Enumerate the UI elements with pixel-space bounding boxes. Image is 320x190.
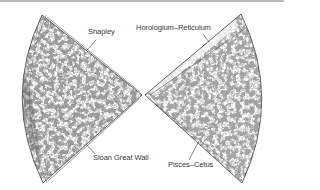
label-horologium-reticulum: Horologium–Reticulum bbox=[136, 23, 211, 32]
leader-pisces bbox=[189, 141, 199, 160]
label-sloan-great-wall: Sloan Great Wall bbox=[93, 153, 149, 162]
leader-shapley bbox=[87, 40, 96, 50]
label-shapley: Shapley bbox=[88, 27, 115, 36]
label-pisces-cetus: Pisces–Cetus bbox=[168, 160, 213, 169]
leader-horologium bbox=[203, 34, 209, 42]
